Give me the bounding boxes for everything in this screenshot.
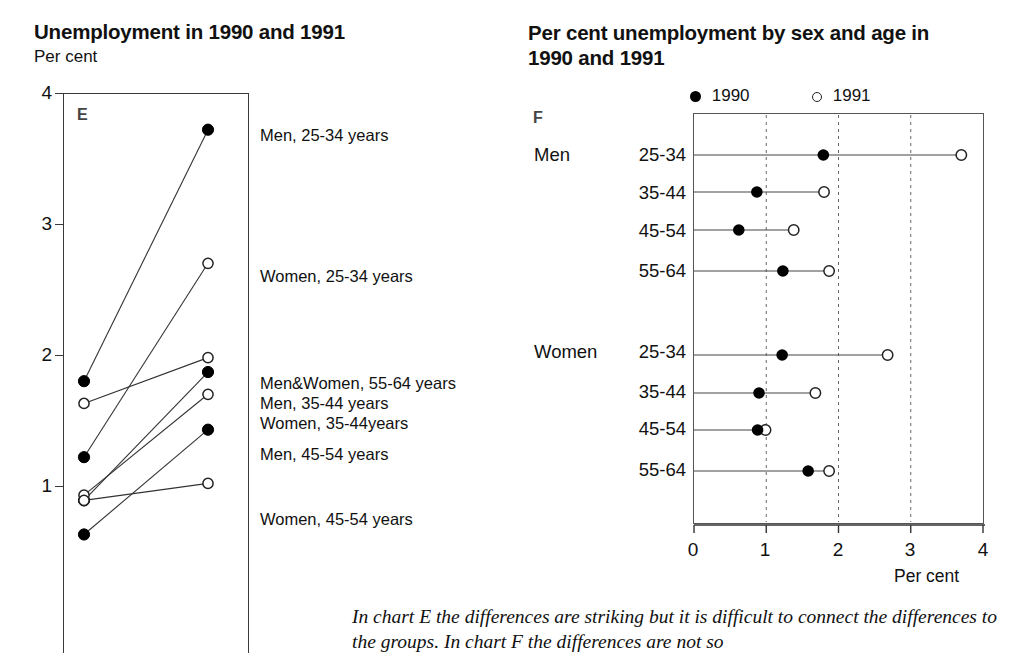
chart-e-legend-item-women-35-44: Women, 35-44years [260, 414, 408, 433]
chart-f-series-layer [693, 113, 984, 524]
chart-e-title: Unemployment in 1990 and 1991 [34, 20, 454, 44]
chart-f-row-label-women-35-44: 35-44 [624, 381, 686, 403]
chart-f-xtick-1: 1 [751, 539, 779, 561]
chart-e-legend-item-women-25-34: Women, 25-34 years [260, 267, 413, 286]
chart-e-unit-label: Per cent [34, 47, 97, 67]
chart-f-row-label-men-45-54: 45-54 [624, 220, 686, 242]
chart-e-series-layer [63, 93, 249, 653]
chart-f-title: Per cent unemployment by sex and age in … [528, 20, 948, 70]
chart-f-row-label-women-25-34: 25-34 [624, 341, 686, 363]
open-dot-icon [812, 92, 822, 102]
chart-f-xtick-3: 3 [896, 539, 924, 561]
chart-f-xtick-2: 2 [824, 539, 852, 561]
chart-f-row-label-men-35-44: 35-44 [624, 182, 686, 204]
chart-e-ytick-4: 4 [26, 82, 52, 104]
chart-e-ytick-mark-2 [55, 355, 63, 356]
chart-f-panel-letter: F [533, 109, 543, 127]
chart-f-legend-label-1991: 1991 [833, 86, 871, 105]
chart-e-ytick-mark-1 [55, 486, 63, 487]
chart-f-row-label-women-45-54: 45-54 [624, 418, 686, 440]
chart-f-group-label-men: Men [534, 144, 570, 166]
chart-f-row-label-men-25-34: 25-34 [624, 144, 686, 166]
filled-dot-icon [690, 91, 701, 102]
chart-f-group-label-women: Women [534, 341, 597, 363]
chart-e-legend-item-men-25-34: Men, 25-34 years [260, 126, 388, 145]
chart-f-legend-entry-1991: 1991 [812, 86, 871, 106]
chart-f-x-axis-title: Per cent [894, 566, 959, 587]
chart-f-legend: 1990 1991 [690, 86, 990, 110]
chart-f-legend-entry-1990: 1990 [690, 86, 750, 106]
chart-e-ytick-3: 3 [26, 213, 52, 235]
chart-e-ytick-2: 2 [26, 344, 52, 366]
chart-e-legend-item-men-35-44: Men, 35-44 years [260, 394, 388, 413]
chart-f-xtick-4: 4 [969, 539, 997, 561]
chart-f-xtick-0: 0 [679, 539, 707, 561]
chart-f-row-label-women-55-64: 55-64 [624, 459, 686, 481]
chart-f-legend-label-1990: 1990 [712, 86, 750, 105]
chart-e-ytick-mark-3 [55, 224, 63, 225]
chart-f-x-axis [693, 524, 993, 538]
chart-e-legend-item-women-45-54: Women, 45-54 years [260, 510, 413, 529]
chart-e-legend-item-menwomen-55-64: Men&Women, 55-64 years [260, 374, 456, 393]
chart-e-legend-item-men-45-54: Men, 45-54 years [260, 445, 388, 464]
figure-caption: In chart E the differences are striking … [352, 604, 1018, 654]
chart-e-ytick-1: 1 [26, 475, 52, 497]
chart-f-row-label-men-55-64: 55-64 [624, 260, 686, 282]
chart-e-ytick-mark-4 [55, 93, 63, 94]
